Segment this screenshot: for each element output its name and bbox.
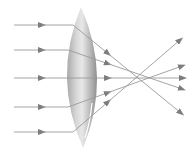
light-ray bbox=[14, 25, 181, 113]
light-ray bbox=[14, 40, 180, 132]
light-ray bbox=[14, 66, 182, 107]
convex-lens-ray-diagram bbox=[0, 0, 192, 151]
biconvex-lens bbox=[67, 7, 97, 148]
light-ray bbox=[14, 50, 182, 89]
